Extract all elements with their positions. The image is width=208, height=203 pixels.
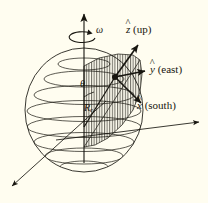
angular-velocity-label: ω — [96, 25, 103, 35]
earth-radius-subscript: e — [90, 106, 93, 113]
y-hat-mark: ^ — [150, 58, 155, 68]
x-axis-label: ^x (south) — [137, 100, 176, 111]
earth-coordinate-diagram: ^z (up) ^y (east) ^x (south) ω θ Re — [0, 0, 208, 203]
z-hat-mark: ^ — [125, 18, 130, 28]
x-paren-text: (south) — [145, 99, 176, 111]
z-axis-label: ^z (up) — [126, 24, 151, 35]
y-axis-label: ^y (east) — [150, 64, 182, 75]
earth-radius-label: Re — [84, 103, 93, 114]
diagram-canvas — [0, 0, 208, 203]
x-hat-mark: ^ — [137, 94, 142, 104]
y-paren-text: (east) — [158, 63, 182, 75]
rotation-arrow-icon — [69, 30, 95, 43]
surface-point-marker — [112, 74, 118, 80]
polar-angle-label: θ — [80, 79, 85, 89]
z-paren-text: (up) — [133, 23, 151, 35]
